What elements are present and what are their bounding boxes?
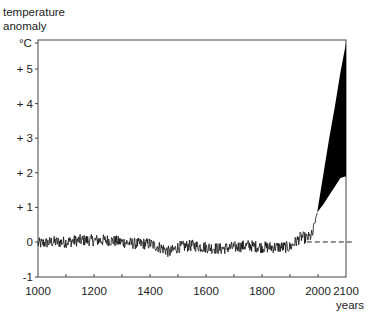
x-tick-label: 1000	[25, 285, 51, 297]
x-tick-label: 1200	[81, 285, 107, 297]
x-tick-label: 1600	[193, 285, 219, 297]
y-axis-unit: °C	[19, 37, 32, 49]
y-tick-label: 0	[27, 236, 33, 248]
projection-range-band	[317, 43, 346, 213]
y-axis-title-line2: anomaly	[3, 20, 47, 32]
temperature-anomaly-chart: 1000120014001600180020002100 -10+ 1+ 2+ …	[0, 0, 375, 321]
x-axis-title: years	[336, 299, 364, 311]
y-tick-label: + 5	[17, 63, 33, 75]
y-tick-label: + 2	[17, 167, 33, 179]
x-tick-label: 2100	[333, 285, 359, 297]
x-axis-tick-labels: 1000120014001600180020002100	[25, 285, 359, 297]
y-axis-tick-labels: -10+ 1+ 2+ 3+ 4+ 5	[17, 63, 34, 283]
x-tick-label: 1400	[137, 285, 163, 297]
temperature-trace-line	[38, 213, 317, 257]
y-tick-label: + 3	[17, 132, 33, 144]
x-tick-label: 1800	[249, 285, 275, 297]
y-tick-label: -1	[23, 271, 33, 283]
plot-area: 1000120014001600180020002100 -10+ 1+ 2+ …	[17, 40, 359, 297]
x-tick-label: 2000	[305, 285, 331, 297]
y-tick-label: + 4	[17, 98, 34, 110]
y-axis-title-line1: temperature	[3, 6, 65, 18]
y-tick-label: + 1	[17, 201, 33, 213]
